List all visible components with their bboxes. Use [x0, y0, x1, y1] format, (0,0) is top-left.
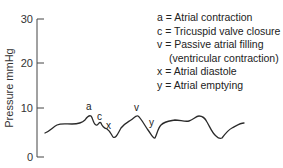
- legend-item-y: y = Atrial emptying: [157, 79, 280, 93]
- legend: a = Atrial contraction c = Tricuspid val…: [157, 11, 280, 93]
- y-tick-label-20: 20: [21, 57, 33, 69]
- legend-item-x: x = Atrial diastole: [157, 65, 280, 79]
- legend-item-c: c = Tricuspid valve closure: [157, 25, 280, 39]
- legend-item-a: a = Atrial contraction: [157, 11, 280, 25]
- wave-label-v: v: [134, 102, 139, 113]
- y-tick-label-10: 10: [21, 102, 33, 114]
- pressure-waveform: [45, 116, 244, 139]
- legend-item-v-continued: (ventricular contraction): [157, 52, 280, 66]
- y-tick-label-30: 30: [21, 13, 33, 25]
- wave-label-y: y: [149, 117, 154, 128]
- y-tick-label-0: 0: [27, 151, 33, 163]
- wave-label-c: c: [97, 111, 102, 122]
- wave-label-x: x: [106, 120, 111, 131]
- wave-label-a: a: [86, 101, 92, 112]
- y-axis-label: Pressure mmHg: [3, 48, 15, 127]
- legend-item-v: v = Passive atrial filling: [157, 38, 280, 52]
